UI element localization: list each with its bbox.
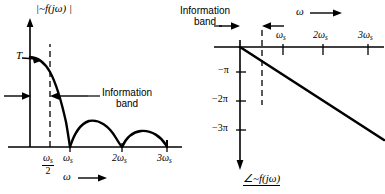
left-band-arrow-right-head: [50, 92, 59, 100]
left-information-band-annotation: Information band: [102, 88, 152, 109]
left-information-band-line1: Information: [102, 87, 152, 98]
right-yaxis-arrowhead: [237, 160, 244, 170]
right-information-band-line1: Information: [180, 5, 230, 16]
right-xtick-label-ws: ωs: [276, 30, 286, 42]
left-xtick-label-3ws: 3ωs: [157, 153, 172, 165]
left-information-band-line2: band: [116, 98, 138, 109]
right-information-band-line2: band: [194, 16, 216, 27]
left-omega-arrow-head: [98, 174, 107, 181]
left-curve-third-lobe: [122, 131, 167, 147]
right-ytick-label-2pi: −2π: [212, 94, 228, 105]
left-xaxis-label: ω: [63, 171, 71, 183]
right-information-band-annotation: Information band: [180, 6, 230, 27]
left-xtick-label-ws-half: ωs 2: [42, 153, 54, 177]
right-band-arrow-left-head: [231, 22, 240, 30]
left-xtick-label-2ws: 2ωs: [112, 153, 127, 165]
left-peak-label: T: [16, 50, 22, 62]
right-xaxis-label: ω: [296, 6, 304, 18]
left-yaxis-arrowhead: [27, 18, 34, 27]
left-curve-second-lobe: [70, 121, 122, 147]
right-ytick-label-pi: −π: [218, 65, 229, 76]
right-ytick-label-3pi: −3π: [212, 123, 228, 134]
figure-container: |~f(jω) | T Information band ωs 2 ωs 2ωs…: [0, 0, 385, 194]
left-plot-title: |~f(jω) |: [36, 3, 72, 15]
right-band-arrow-right-head: [262, 22, 271, 30]
left-xtick-label-ws: ωs: [63, 153, 73, 165]
right-xtick-label-2ws: 2ωs: [313, 30, 328, 42]
right-xtick-label-3ws: 3ωs: [358, 30, 373, 42]
left-plot-group: [4, 18, 182, 182]
right-omega-arrow-head: [333, 9, 342, 16]
right-plot-title: ∠~f(jω): [243, 173, 280, 186]
